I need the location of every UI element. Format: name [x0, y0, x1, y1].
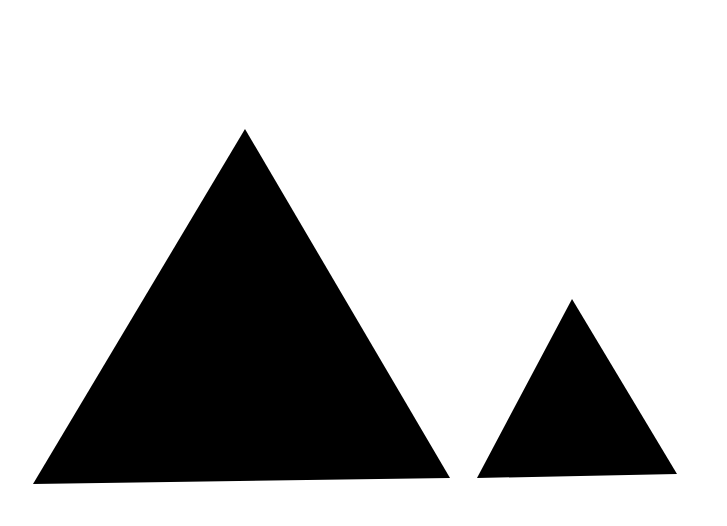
scene-canvas — [0, 0, 727, 526]
large-triangle-shape — [33, 129, 450, 484]
small-triangle-shape — [477, 299, 677, 478]
triangles-figure — [0, 0, 727, 526]
